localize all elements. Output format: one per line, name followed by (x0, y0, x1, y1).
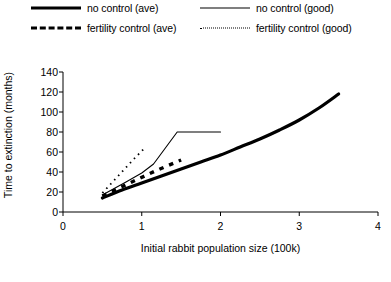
chart-figure: no control (ave) fertility control (ave)… (0, 0, 391, 282)
series-line-no-control-good (102, 132, 220, 195)
axis-ticks (59, 72, 378, 216)
plot-area (0, 0, 391, 282)
series-line-no-control-ave (102, 94, 338, 198)
series-line-fertility-control-ave (102, 160, 181, 196)
data-series (102, 94, 338, 198)
